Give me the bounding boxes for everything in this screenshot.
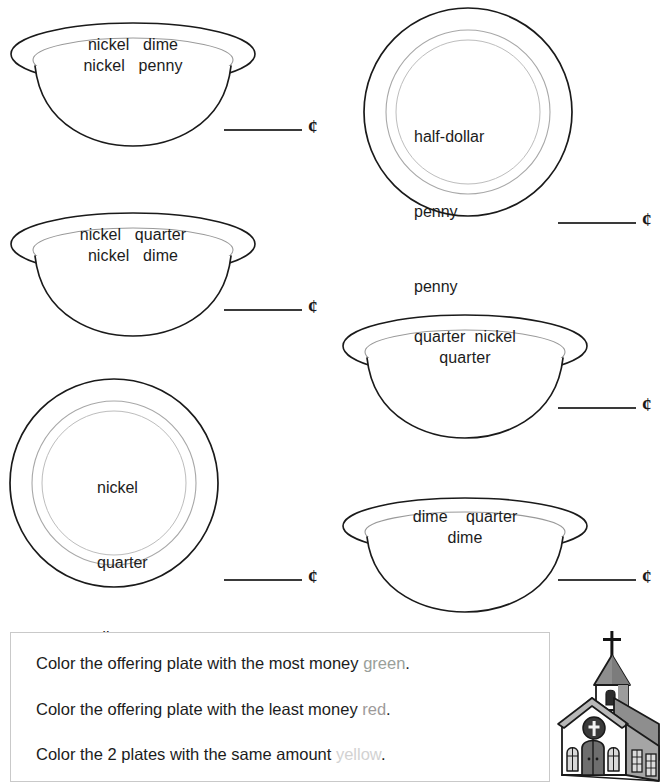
instruction-line-3: Color the 2 plates with the same amount …	[36, 746, 549, 763]
instruction-1-color-word: green	[363, 654, 405, 672]
instruction-2-prefix: Color the offering plate with the least …	[36, 700, 362, 718]
instructions-box: Color the offering plate with the most m…	[10, 632, 550, 782]
instruction-3-prefix: Color the 2 plates with the same amount	[36, 745, 336, 763]
offering-plate-2[interactable]: half-dollar penny penny penny	[362, 6, 574, 218]
plate-2-coin-line-3: penny	[414, 274, 484, 299]
door-handle-left	[588, 758, 591, 761]
cent-symbol-6: ¢	[642, 567, 652, 586]
offering-plate-5[interactable]: nickel quarter dime penny	[8, 377, 220, 589]
instruction-1-prefix: Color the offering plate with the most m…	[36, 654, 363, 672]
instruction-2-color-word: red	[362, 700, 386, 718]
church-illustration	[556, 628, 668, 784]
answer-line-5[interactable]	[224, 579, 302, 581]
answer-blank-5[interactable]: ¢	[224, 570, 318, 589]
answer-line-1[interactable]	[224, 129, 302, 131]
offering-plate-4[interactable]: quarter nickel quarter	[340, 306, 590, 441]
answer-line-2[interactable]	[558, 222, 636, 224]
worksheet-canvas: nickel dime nickel penny ¢ half-dollar p…	[0, 0, 671, 784]
answer-blank-1[interactable]: ¢	[224, 120, 318, 139]
church-icon	[556, 628, 668, 784]
bowl-shape-4	[340, 306, 590, 441]
answer-line-3[interactable]	[224, 309, 302, 311]
answer-blank-4[interactable]: ¢	[558, 398, 652, 417]
offering-plate-3[interactable]: nickel quarter nickel dime	[8, 204, 258, 339]
steeple-cross-icon	[603, 631, 621, 657]
answer-line-6[interactable]	[558, 579, 636, 581]
plate-shape-2	[362, 6, 574, 218]
cent-symbol-1: ¢	[308, 117, 318, 136]
answer-blank-6[interactable]: ¢	[558, 570, 652, 589]
cent-symbol-5: ¢	[308, 567, 318, 586]
bowl-shape-3	[8, 204, 258, 339]
bowl-shape-6	[340, 490, 590, 615]
answer-blank-3[interactable]: ¢	[224, 300, 318, 319]
cent-symbol-3: ¢	[308, 297, 318, 316]
cent-symbol-4: ¢	[642, 395, 652, 414]
cent-symbol-2: ¢	[642, 210, 652, 229]
answer-line-4[interactable]	[558, 407, 636, 409]
offering-plate-6[interactable]: dime quarter dime	[340, 490, 590, 615]
instruction-3-color-word: yellow	[336, 745, 381, 763]
bowl-shape-1	[8, 14, 258, 149]
plate-shape-5	[8, 377, 220, 589]
offering-plate-1[interactable]: nickel dime nickel penny	[8, 14, 258, 149]
instruction-3-suffix: .	[381, 745, 386, 763]
instruction-line-2: Color the offering plate with the least …	[36, 701, 549, 718]
instruction-2-suffix: .	[386, 700, 391, 718]
instruction-1-suffix: .	[405, 654, 410, 672]
answer-blank-2[interactable]: ¢	[558, 213, 652, 232]
instruction-line-1: Color the offering plate with the most m…	[36, 655, 549, 672]
door-handle-right	[596, 758, 599, 761]
